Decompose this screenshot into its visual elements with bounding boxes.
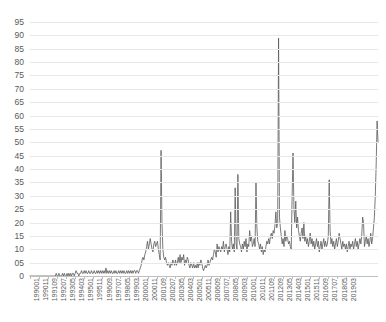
x-axis-tick-label: 199609 (106, 278, 113, 301)
x-axis-tick-label: 199001 (33, 278, 40, 301)
x-axis-tick-label: 200511 (205, 278, 212, 301)
y-axis-tick-label: 30 (15, 192, 24, 201)
x-axis-labels: 1990011990111991091992071993051994031995… (30, 278, 378, 322)
gridline (30, 75, 378, 76)
x-axis-tick-label: 199511 (96, 278, 103, 301)
chart-container: 005101520253035404550556065707580859095 … (0, 0, 386, 322)
x-axis-tick-label: 201511 (313, 278, 320, 301)
gridline (30, 102, 378, 103)
x-axis-tick-label: 200707 (223, 278, 230, 301)
gridline (30, 263, 378, 264)
y-axis-tick-label: 0 (19, 272, 24, 281)
gridline (30, 182, 378, 183)
series-line (30, 22, 378, 276)
x-axis-tick-label: 200305 (178, 278, 185, 301)
gridline (30, 236, 378, 237)
y-axis-tick-label: 95 (15, 18, 24, 27)
gridline (30, 209, 378, 210)
x-axis-tick-label: 200609 (214, 278, 221, 301)
y-axis-tick-label: 15 (15, 232, 24, 241)
y-axis-tick-label: 20 (15, 218, 24, 227)
gridline (30, 116, 378, 117)
x-axis-tick-label: 201305 (286, 278, 293, 301)
gridline (30, 249, 378, 250)
x-axis-tick-label: 200403 (187, 278, 194, 301)
x-axis-tick-label: 201209 (277, 278, 284, 301)
x-axis-tick-label: 200001 (142, 278, 149, 301)
x-axis-tick-label: 200805 (232, 278, 239, 301)
x-axis-tick-label: 200501 (196, 278, 203, 301)
x-axis-tick-label: 199109 (51, 278, 58, 301)
y-axis-tick-label: 05 (15, 258, 24, 267)
gridline (30, 129, 378, 130)
x-axis-tick-label: 200207 (169, 278, 176, 301)
gridline (30, 62, 378, 63)
y-axis-tick-label: 40 (15, 165, 24, 174)
y-axis-tick-label: 75 (15, 71, 24, 80)
y-axis-tick-label: 70 (15, 85, 24, 94)
x-axis-tick-label: 201501 (304, 278, 311, 301)
gridline (30, 169, 378, 170)
x-axis-tick-label: 201403 (295, 278, 302, 301)
x-axis-tick-label: 200903 (241, 278, 248, 301)
x-axis-tick-label: 201011 (259, 278, 266, 301)
x-axis-tick-label: 199501 (87, 278, 94, 301)
y-axis-tick-label: 35 (15, 178, 24, 187)
x-axis-tick-label: 199305 (69, 278, 76, 301)
x-axis-tick-label: 199207 (60, 278, 67, 301)
x-axis-tick-label: 199903 (133, 278, 140, 301)
x-axis-tick-label: 200109 (160, 278, 167, 301)
y-axis-tick-label: 80 (15, 58, 24, 67)
x-axis-tick-label: 199403 (78, 278, 85, 301)
gridline (30, 196, 378, 197)
gridline (30, 89, 378, 90)
y-axis-labels: 005101520253035404550556065707580859095 (0, 0, 28, 300)
x-axis-tick-label: 201001 (250, 278, 257, 301)
y-axis-tick-label: 10 (15, 245, 24, 254)
y-axis-tick-label: 60 (15, 111, 24, 120)
y-axis-tick-label: 65 (15, 98, 24, 107)
gridline (30, 49, 378, 50)
x-axis-tick-label: 201109 (268, 278, 275, 301)
gridline (30, 156, 378, 157)
x-axis-tick-label: 201805 (341, 278, 348, 301)
y-axis-tick-label: 90 (15, 31, 24, 40)
plot-area (30, 22, 378, 276)
x-axis-tick-label: 200011 (151, 278, 158, 301)
y-axis-tick-label: 50 (15, 138, 24, 147)
x-axis-tick-label: 201903 (350, 278, 357, 301)
y-axis-tick-label: 85 (15, 44, 24, 53)
x-axis-tick-label: 201609 (322, 278, 329, 301)
x-axis-tick-label: 201707 (331, 278, 338, 301)
gridline (30, 223, 378, 224)
y-axis-tick-label: 25 (15, 205, 24, 214)
x-axis-tick-label: 199011 (42, 278, 49, 301)
x-axis-tick-label: 199707 (115, 278, 122, 301)
gridline (30, 142, 378, 143)
y-axis-tick-label: 55 (15, 125, 24, 134)
y-axis-tick-label: 45 (15, 151, 24, 160)
x-axis-tick-label: 199805 (124, 278, 131, 301)
gridline (30, 35, 378, 36)
gridline (30, 22, 378, 23)
